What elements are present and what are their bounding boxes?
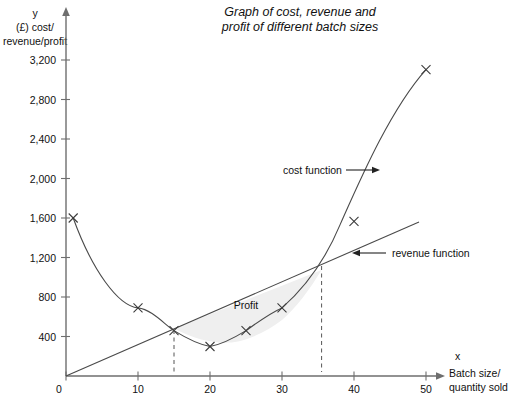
revenue-function-annotation: revenue function	[352, 247, 470, 259]
cost-function-annotation: cost function	[283, 164, 380, 176]
data-point-marker	[350, 217, 359, 226]
cost-revenue-profit-chart: Graph of cost, revenue and profit of dif…	[0, 0, 514, 398]
x-tick-label: 20	[204, 383, 216, 395]
data-point-marker	[206, 342, 215, 351]
y-tick-label: 800	[38, 291, 56, 303]
data-point-marker	[422, 65, 431, 74]
x-tick-label: 0	[56, 383, 62, 395]
chart-title-line1: Graph of cost, revenue and	[224, 5, 377, 19]
y-tick-label: 2,400	[30, 133, 56, 145]
x-tick-label: 50	[420, 383, 432, 395]
chart-title-line2: profit of different batch sizes	[221, 20, 378, 34]
data-point-marker	[69, 214, 78, 223]
y-tick-label: 3,200	[30, 54, 56, 66]
x-tick-label: 30	[276, 383, 288, 395]
x-axis-label-line1: Batch size/	[449, 367, 500, 379]
y-axis-label-line1: (£) cost/	[16, 21, 54, 33]
y-tick-label: 1,600	[30, 212, 56, 224]
x-tick-label: 10	[132, 383, 144, 395]
y-tick-label: 1,200	[30, 252, 56, 264]
cost-function-arrowhead	[372, 167, 380, 173]
x-axis-arrowhead	[436, 372, 445, 380]
chart-container: Graph of cost, revenue and profit of dif…	[0, 0, 514, 398]
y-axis-tick-labels: 400 800 1,200 1,600 2,000 2,400 2,800 3,…	[30, 54, 56, 343]
y-axis-label-line2: revenue/profit	[3, 35, 67, 47]
x-axis	[66, 372, 445, 380]
cost-function-label: cost function	[283, 164, 342, 176]
x-tick-label: 40	[348, 383, 360, 395]
x-axis-symbol-label: x	[455, 350, 461, 362]
x-axis-tick-labels: 0 10 20 30 40 50	[56, 383, 432, 395]
y-axis-symbol-label: y	[32, 7, 38, 19]
y-axis	[62, 7, 70, 376]
y-axis-arrowhead	[62, 7, 70, 16]
revenue-function-label: revenue function	[392, 247, 470, 259]
profit-region-label: Profit	[234, 299, 259, 311]
y-tick-label: 2,800	[30, 94, 56, 106]
y-tick-label: 2,000	[30, 173, 56, 185]
y-tick-label: 400	[38, 331, 56, 343]
x-axis-label-line2: quantity sold	[449, 381, 508, 393]
